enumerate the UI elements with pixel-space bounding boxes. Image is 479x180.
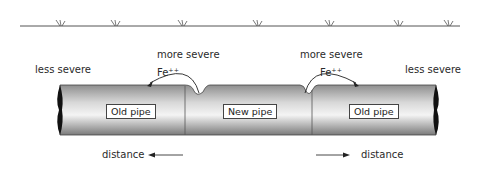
fe-ion-right-label: Fe⁺⁺ bbox=[320, 67, 342, 78]
fe-ion-left-label: Fe⁺⁺ bbox=[157, 67, 179, 78]
old-pipe-left-label: Old pipe bbox=[106, 104, 156, 119]
more-severe-right-label: more severe bbox=[300, 49, 363, 60]
more-severe-left-label: more severe bbox=[157, 49, 220, 60]
old-pipe-right-label: Old pipe bbox=[349, 104, 399, 119]
distance-left-label: distance bbox=[102, 149, 144, 160]
new-pipe-label: New pipe bbox=[223, 104, 277, 119]
distance-right-label: distance bbox=[361, 149, 403, 160]
pipe-diagram bbox=[0, 0, 479, 180]
less-severe-right-label: less severe bbox=[405, 64, 461, 75]
less-severe-left-label: less severe bbox=[35, 64, 91, 75]
grass-marks bbox=[56, 20, 453, 26]
